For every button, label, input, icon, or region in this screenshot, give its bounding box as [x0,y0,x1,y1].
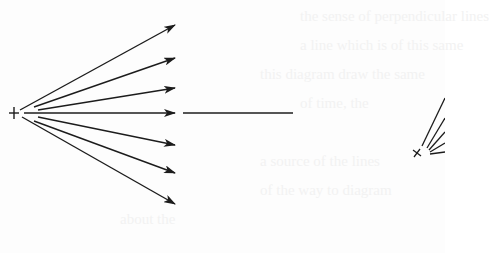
field-arrow [38,117,175,145]
field-arrow [34,121,175,173]
cross-charge-icon [413,149,421,157]
field-arrow [20,25,175,110]
field-line [427,118,445,148]
field-line [422,98,445,146]
field-line [430,152,445,154]
positive-charge-icon [9,107,19,119]
field-line [430,143,445,152]
field-lines-right [422,98,445,154]
field-arrows-left [20,25,175,204]
